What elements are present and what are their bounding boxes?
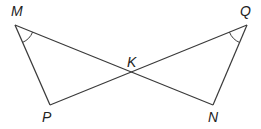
angle-mark-q: [229, 32, 239, 42]
label-n: N: [208, 109, 219, 125]
label-p: P: [42, 109, 52, 125]
label-m: M: [11, 3, 23, 19]
label-q: Q: [240, 3, 251, 19]
angle-mark-m: [23, 32, 33, 42]
label-k: K: [127, 54, 137, 70]
geometry-diagram: M Q P N K: [0, 0, 261, 129]
